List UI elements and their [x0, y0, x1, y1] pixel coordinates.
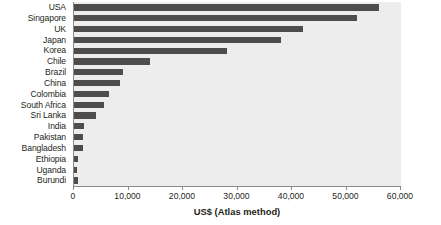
category-label: Singapore	[0, 13, 70, 24]
bar	[74, 156, 78, 162]
bar	[74, 69, 123, 75]
category-label: Ethiopia	[0, 154, 70, 165]
bar-row	[74, 175, 401, 186]
bar	[74, 134, 83, 140]
category-label: Pakistan	[0, 132, 70, 143]
bar-row	[74, 121, 401, 132]
bar	[74, 177, 78, 183]
x-axis-tick-label: 20,000	[169, 191, 195, 201]
category-label: South Africa	[0, 99, 70, 110]
bar	[74, 15, 357, 21]
x-axis-tick	[346, 187, 347, 190]
horizontal-bar-chart: USASingaporeUKJapanKoreaChileBrazilChina…	[0, 0, 441, 225]
bar-row	[74, 13, 401, 24]
bar-row	[74, 89, 401, 100]
category-label: Brazil	[0, 67, 70, 78]
bar-row	[74, 2, 401, 13]
x-axis-tick-label: 10,000	[114, 191, 140, 201]
bar-row	[74, 132, 401, 143]
category-label: Bangladesh	[0, 143, 70, 154]
bar	[74, 48, 227, 54]
x-axis-tick-label: 40,000	[278, 191, 304, 201]
bar	[74, 58, 150, 64]
x-axis-title: US$ (Atlas method)	[73, 206, 401, 217]
category-label: Korea	[0, 45, 70, 56]
plot-area	[73, 2, 401, 186]
x-axis-tick	[128, 187, 129, 190]
bar	[74, 102, 104, 108]
bar	[74, 26, 303, 32]
bar	[74, 91, 109, 97]
bar-row	[74, 143, 401, 154]
bar	[74, 4, 379, 10]
bar-row	[74, 110, 401, 121]
category-label: China	[0, 78, 70, 89]
x-axis-tick-label: 0	[71, 191, 76, 201]
category-label: UK	[0, 24, 70, 35]
x-axis-tick	[73, 187, 74, 190]
x-axis-tick-label: 30,000	[223, 191, 249, 201]
x-axis-tick	[291, 187, 292, 190]
category-label: India	[0, 121, 70, 132]
bar-row	[74, 164, 401, 175]
bar-row	[74, 45, 401, 56]
bar-row	[74, 99, 401, 110]
bar-row	[74, 24, 401, 35]
category-label: Japan	[0, 34, 70, 45]
category-label: USA	[0, 2, 70, 13]
bar	[74, 123, 84, 129]
x-axis-tick	[400, 187, 401, 190]
category-label: Colombia	[0, 89, 70, 100]
bar	[74, 167, 77, 173]
bar-row	[74, 78, 401, 89]
bar	[74, 80, 120, 86]
x-axis-tick-label: 60,000	[387, 191, 413, 201]
category-label: Chile	[0, 56, 70, 67]
category-label: Uganda	[0, 164, 70, 175]
bar	[74, 37, 281, 43]
bar-row	[74, 153, 401, 164]
bar-row	[74, 56, 401, 67]
bar-row	[74, 34, 401, 45]
category-axis: USASingaporeUKJapanKoreaChileBrazilChina…	[0, 2, 70, 186]
x-axis-tick	[182, 187, 183, 190]
category-label: Sri Lanka	[0, 110, 70, 121]
bar	[74, 112, 96, 118]
category-label: Burundi	[0, 175, 70, 186]
x-axis-tick-label: 50,000	[332, 191, 358, 201]
bar	[74, 145, 83, 151]
x-axis-tick	[237, 187, 238, 190]
bar-row	[74, 67, 401, 78]
